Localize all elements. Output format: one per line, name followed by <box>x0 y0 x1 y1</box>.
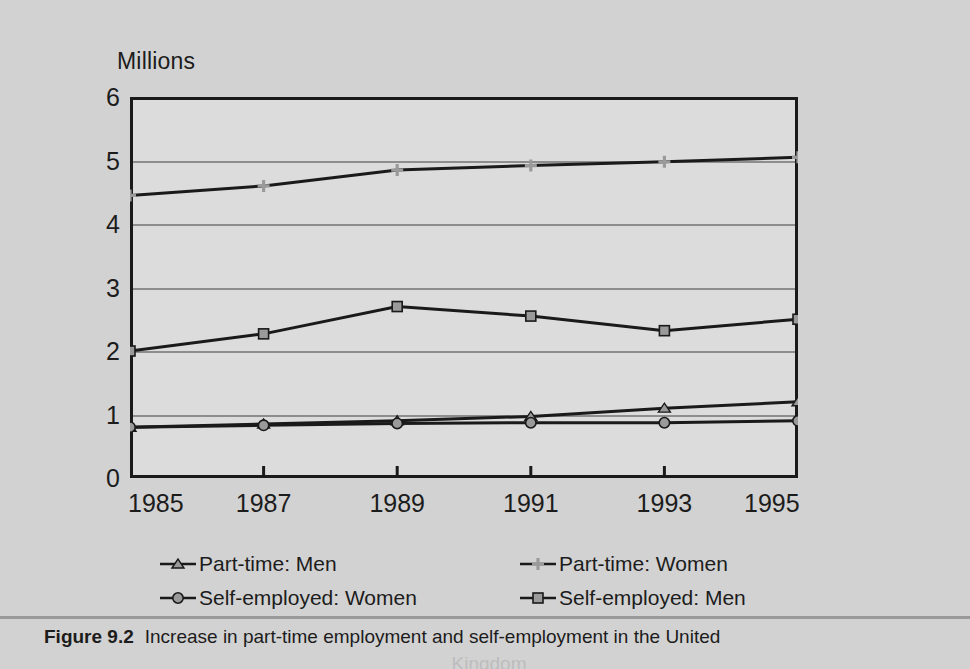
marker-plus <box>258 180 270 192</box>
chart-legend: Part-time: MenPart-time: WomenSelf-emplo… <box>130 550 830 616</box>
marker-square <box>659 326 669 336</box>
marker-circle <box>258 420 268 430</box>
x-tick-label-1985: 1985 <box>128 489 184 518</box>
y-tick-label-1: 1 <box>86 400 120 429</box>
figure-caption-text-line2: Kingdom <box>44 651 934 669</box>
marker-circle <box>793 416 798 426</box>
marker-square <box>533 593 543 603</box>
legend-item-part-time-women[interactable]: Part-time: Women <box>520 552 728 576</box>
figure-caption-text: Increase in part-time employment and sel… <box>145 626 721 647</box>
chart-series-svg <box>130 97 798 478</box>
legend-item-label: Part-time: Men <box>199 552 337 576</box>
x-tick-label-1993: 1993 <box>637 489 693 518</box>
y-tick-label-5: 5 <box>86 146 120 175</box>
legend-item-self-employed-men[interactable]: Self-employed: Men <box>520 586 746 610</box>
y-tick-label-3: 3 <box>86 273 120 302</box>
marker-plus <box>130 189 136 201</box>
y-tick-label-0: 0 <box>86 464 120 493</box>
legend-item-label: Self-employed: Women <box>199 586 417 610</box>
x-tick-label-1987: 1987 <box>236 489 292 518</box>
legend-marker-circle <box>160 590 196 606</box>
x-tick-label-1991: 1991 <box>503 489 559 518</box>
marker-square <box>392 302 402 312</box>
caption-divider <box>0 616 970 619</box>
marker-circle <box>173 593 183 603</box>
x-tick-label-1989: 1989 <box>369 489 425 518</box>
marker-plus <box>532 558 544 570</box>
legend-marker-plus <box>520 556 556 572</box>
marker-plus <box>792 151 798 163</box>
figure-container: Millions 0123456 19851987198919911993199… <box>0 0 970 669</box>
marker-square <box>130 346 135 356</box>
marker-plus <box>391 164 403 176</box>
legend-item-label: Part-time: Women <box>559 552 728 576</box>
marker-circle <box>392 418 402 428</box>
figure-caption-label: Figure 9.2 <box>44 626 134 647</box>
marker-circle <box>130 422 135 432</box>
marker-circle <box>526 418 536 428</box>
marker-square <box>793 314 798 324</box>
marker-square <box>526 311 536 321</box>
figure-caption: Figure 9.2Increase in part-time employme… <box>44 624 934 649</box>
y-axis-tick-labels: 0123456 <box>82 97 120 478</box>
y-tick-label-2: 2 <box>86 337 120 366</box>
marker-square <box>259 329 269 339</box>
marker-plus <box>658 156 670 168</box>
legend-marker-triangle <box>160 556 196 572</box>
series-self-employed-men <box>130 302 798 356</box>
x-tick-label-1995: 1995 <box>744 489 800 518</box>
y-tick-label-6: 6 <box>86 83 120 112</box>
x-axis-tick-labels: 198519871989199119931995 <box>130 489 798 529</box>
legend-item-part-time-men[interactable]: Part-time: Men <box>160 552 337 576</box>
y-tick-label-4: 4 <box>86 210 120 239</box>
marker-circle <box>659 418 669 428</box>
series-part-time-women <box>130 151 798 201</box>
legend-item-self-employed-women[interactable]: Self-employed: Women <box>160 586 417 610</box>
legend-item-label: Self-employed: Men <box>559 586 746 610</box>
marker-plus <box>525 160 537 172</box>
chart-plot-wrapper: Millions 0123456 19851987198919911993199… <box>0 0 970 540</box>
legend-marker-square <box>520 590 556 606</box>
y-axis-unit-label: Millions <box>117 48 195 75</box>
